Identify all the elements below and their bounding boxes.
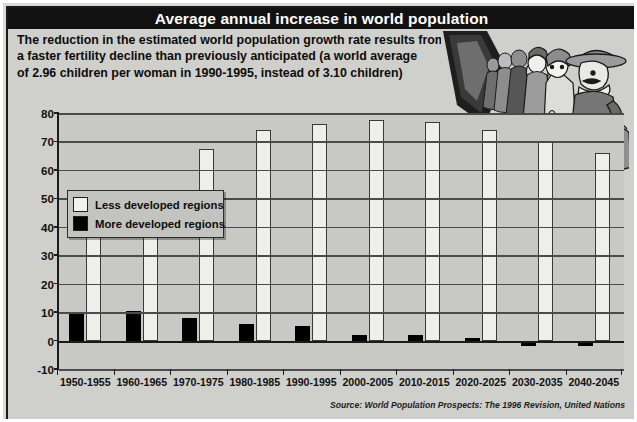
intro-line-1: The reduction in the estimated world pop… — [17, 32, 457, 48]
x-axis-tick-9 — [566, 369, 567, 375]
intro-line-2: a faster fertility decline than previous… — [17, 48, 457, 64]
bar-2000-2005-less-developed — [369, 120, 384, 340]
x-axis: 1950-19551960-19651970-19751980-19851990… — [57, 369, 624, 395]
y-axis-tick-10 — [54, 311, 59, 313]
y-axis-label-40: 40 — [41, 220, 54, 233]
y-axis-tick-40 — [54, 226, 59, 228]
y-axis-label-50: 50 — [41, 192, 54, 205]
gridline-30 — [59, 255, 624, 257]
y-axis-tick-70 — [54, 141, 59, 143]
x-axis-label-2020-2025: 2020-2025 — [455, 376, 506, 388]
bar-1990-1995-less-developed — [312, 124, 327, 340]
x-axis-tick-4 — [283, 369, 284, 375]
y-axis-tick-50 — [54, 198, 59, 200]
bar-1960-1965-more-developed — [126, 311, 141, 341]
y-axis-tick-0 — [54, 340, 59, 342]
gridline-0 — [59, 341, 624, 343]
x-axis-label-1970-1975: 1970-1975 — [173, 376, 224, 388]
y-axis-tick-20 — [54, 283, 59, 285]
title-bar: Average annual increase in world populat… — [8, 8, 635, 29]
bar-1950-1955-more-developed — [69, 312, 84, 340]
x-axis-label-1950-1955: 1950-1955 — [60, 376, 111, 388]
x-axis-tick-7 — [453, 369, 454, 375]
x-axis-tick-8 — [509, 369, 510, 375]
legend-swatch-light-icon — [73, 197, 88, 212]
source-note: Source: World Population Prospects: The … — [330, 400, 625, 410]
x-axis-tick-5 — [340, 369, 341, 375]
y-axis-label-30: 30 — [41, 249, 54, 262]
y-axis-tick-60 — [54, 169, 59, 171]
chart-legend: Less developed regions More developed re… — [67, 190, 224, 238]
x-axis-tick-6 — [396, 369, 397, 375]
y-axis-label-70: 70 — [41, 135, 54, 148]
infographic-page: Average annual increase in world populat… — [0, 0, 637, 422]
y-axis-label--10: -10 — [37, 363, 54, 376]
bars-container — [59, 113, 624, 369]
x-axis-tick-1 — [114, 369, 115, 375]
bar-1980-1985-more-developed — [239, 324, 254, 341]
gridline-60 — [59, 170, 624, 172]
legend-item-more-developed: More developed regions — [73, 214, 218, 233]
intro-line-3: of 2.96 children per woman in 1990-1995,… — [17, 65, 457, 81]
gridline-70 — [59, 141, 624, 143]
x-axis-label-2030-2035: 2030-2035 — [512, 376, 563, 388]
x-axis-label-2040-2045: 2040-2045 — [568, 376, 619, 388]
legend-swatch-dark-icon — [73, 216, 88, 231]
x-axis-label-2000-2005: 2000-2005 — [342, 376, 393, 388]
gridline-80 — [59, 113, 624, 115]
y-axis-tick-80 — [54, 112, 59, 114]
y-axis-label-60: 60 — [41, 163, 54, 176]
legend-label-less-developed: Less developed regions — [95, 199, 224, 211]
x-axis-label-2010-2015: 2010-2015 — [399, 376, 450, 388]
intro-text: The reduction in the estimated world pop… — [17, 32, 457, 81]
y-axis-label-20: 20 — [41, 277, 54, 290]
legend-item-less-developed: Less developed regions — [73, 195, 218, 214]
bar-1990-1995-more-developed — [295, 326, 310, 340]
bar-chart: -1001020304050607080 1950-19551960-19651… — [8, 95, 635, 395]
x-axis-tick-0 — [57, 369, 58, 375]
bar-2010-2015-less-developed — [425, 122, 440, 341]
bar-1970-1975-more-developed — [182, 318, 197, 341]
gridline-10 — [59, 312, 624, 314]
x-axis-label-1960-1965: 1960-1965 — [116, 376, 167, 388]
bar-1950-1955-less-developed — [86, 235, 101, 340]
page-title: Average annual increase in world populat… — [155, 10, 489, 28]
gridline-20 — [59, 284, 624, 286]
y-axis-tick-30 — [54, 254, 59, 256]
x-axis-tick-3 — [227, 369, 228, 375]
x-axis-label-1990-1995: 1990-1995 — [286, 376, 337, 388]
bar-1980-1985-less-developed — [256, 130, 271, 340]
plot-area: -1001020304050607080 — [57, 113, 624, 369]
y-axis-label-80: 80 — [41, 107, 54, 120]
x-axis-tick-2 — [170, 369, 171, 375]
x-axis-label-1980-1985: 1980-1985 — [229, 376, 280, 388]
y-axis-label-10: 10 — [41, 306, 54, 319]
legend-label-more-developed: More developed regions — [95, 218, 225, 230]
x-axis-tick-end — [621, 369, 622, 375]
bar-2020-2025-less-developed — [482, 130, 497, 340]
